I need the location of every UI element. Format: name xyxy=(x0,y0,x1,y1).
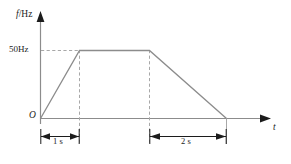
y-axis-label: f/Hz xyxy=(16,10,32,20)
dimension-2s-right-arrowhead xyxy=(216,133,226,140)
diagram-canvas xyxy=(0,0,291,164)
y-axis xyxy=(37,11,45,124)
frequency-time-diagram: f/Hz t O 50Hz 1 s 2 s xyxy=(0,0,291,164)
dimension-label-2s: 2 s xyxy=(179,137,193,146)
x-axis-arrowhead xyxy=(260,114,271,122)
dimension-1s-right-arrowhead xyxy=(70,133,79,140)
dimension-1s-left-arrowhead xyxy=(41,133,50,140)
dimension-label-1s: 1 s xyxy=(51,137,65,146)
dimension-2s-left-arrowhead xyxy=(150,133,160,140)
frequency-curve xyxy=(41,51,227,119)
y-axis-label-unit: /Hz xyxy=(19,9,33,19)
origin-label: O xyxy=(29,111,36,121)
y-axis-arrowhead xyxy=(37,11,45,22)
x-axis-label: t xyxy=(273,123,276,133)
y-tick-label-50hz: 50Hz xyxy=(9,45,29,54)
x-axis xyxy=(41,114,272,122)
